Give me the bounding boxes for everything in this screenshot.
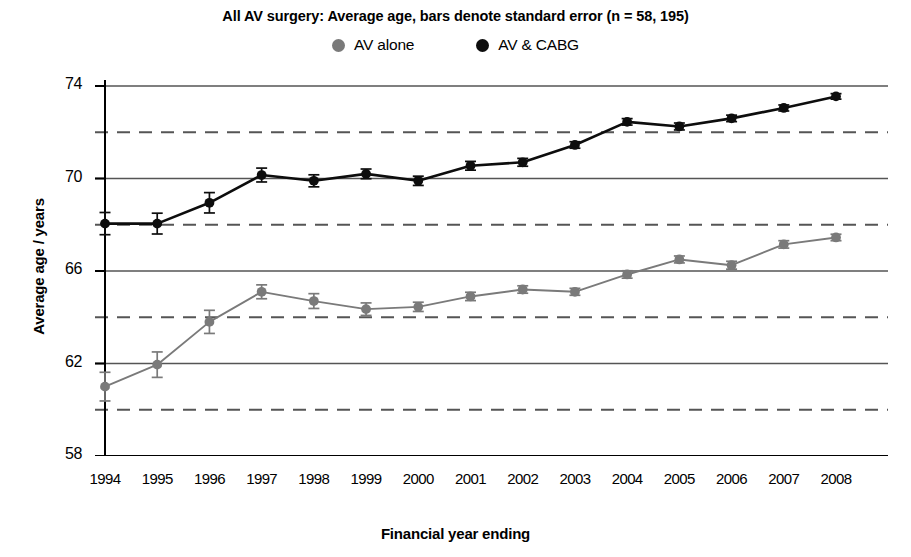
- x-tick-label-1996: 1996: [183, 470, 235, 487]
- y-tick-label-58: 58: [36, 445, 82, 463]
- data-point-marker[interactable]: [674, 255, 684, 265]
- legend-label-av-cabg: AV & CABG: [498, 36, 579, 54]
- legend-marker-black-circle-icon: [476, 39, 489, 52]
- x-tick-label-2008: 2008: [810, 470, 862, 487]
- data-point-marker[interactable]: [727, 113, 737, 123]
- legend-item-av-cabg: AV & CABG: [476, 36, 579, 54]
- data-point-marker[interactable]: [518, 157, 528, 167]
- x-tick-label-2000: 2000: [392, 470, 444, 487]
- data-point-marker[interactable]: [413, 176, 423, 186]
- x-axis-title: Financial year ending: [0, 525, 911, 542]
- chart-title: All AV surgery: Average age, bars denote…: [0, 8, 911, 24]
- plot-svg: [95, 80, 888, 456]
- legend-item-av-alone: AV alone: [332, 36, 414, 54]
- x-tick-label-1994: 1994: [79, 470, 131, 487]
- data-point-marker[interactable]: [622, 117, 632, 127]
- x-tick-label-2007: 2007: [758, 470, 810, 487]
- x-tick-label-1998: 1998: [288, 470, 340, 487]
- legend-label-av-alone: AV alone: [354, 36, 414, 54]
- x-tick-label-2002: 2002: [497, 470, 549, 487]
- x-tick-label-2005: 2005: [653, 470, 705, 487]
- data-point-marker[interactable]: [100, 219, 110, 229]
- data-point-marker[interactable]: [205, 317, 215, 327]
- data-point-marker[interactable]: [257, 287, 267, 297]
- data-point-marker[interactable]: [570, 287, 580, 297]
- y-tick-label-74: 74: [36, 75, 82, 93]
- data-point-marker[interactable]: [100, 382, 110, 392]
- data-point-marker[interactable]: [413, 302, 423, 312]
- data-point-marker[interactable]: [570, 140, 580, 150]
- data-point-marker[interactable]: [727, 260, 737, 270]
- plot-area: [95, 80, 888, 456]
- x-tick-label-1997: 1997: [236, 470, 288, 487]
- data-point-marker[interactable]: [361, 169, 371, 179]
- data-point-marker[interactable]: [831, 92, 841, 102]
- x-tick-label-1995: 1995: [131, 470, 183, 487]
- chart-figure: All AV surgery: Average age, bars denote…: [0, 0, 911, 557]
- x-tick-label-2004: 2004: [601, 470, 653, 487]
- data-point-marker[interactable]: [622, 270, 632, 280]
- data-point-marker[interactable]: [309, 296, 319, 306]
- data-point-marker[interactable]: [152, 219, 162, 229]
- y-tick-label-62: 62: [36, 353, 82, 371]
- data-point-marker[interactable]: [257, 170, 267, 180]
- x-tick-label-2006: 2006: [706, 470, 758, 487]
- x-tick-label-2001: 2001: [445, 470, 497, 487]
- data-point-marker[interactable]: [205, 198, 215, 208]
- data-point-marker[interactable]: [831, 233, 841, 243]
- data-point-marker[interactable]: [466, 292, 476, 302]
- chart-legend: AV alone AV & CABG: [0, 36, 911, 54]
- legend-marker-grey-circle-icon: [332, 39, 345, 52]
- data-point-marker[interactable]: [466, 161, 476, 171]
- series-av-cabg: [100, 92, 842, 235]
- data-point-marker[interactable]: [779, 240, 789, 250]
- data-point-marker[interactable]: [518, 285, 528, 295]
- y-tick-label-66: 66: [36, 260, 82, 278]
- data-point-marker[interactable]: [674, 122, 684, 132]
- data-point-marker[interactable]: [361, 304, 371, 314]
- series-line: [105, 237, 836, 386]
- x-tick-label-2003: 2003: [549, 470, 601, 487]
- data-point-marker[interactable]: [309, 176, 319, 186]
- data-point-marker[interactable]: [779, 103, 789, 113]
- y-tick-label-70: 70: [36, 168, 82, 186]
- data-point-marker[interactable]: [152, 360, 162, 370]
- x-tick-label-1999: 1999: [340, 470, 392, 487]
